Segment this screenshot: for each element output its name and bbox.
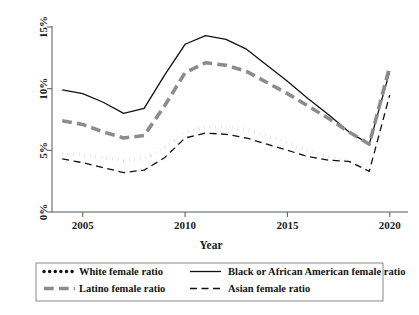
y-tick-label: 0% — [37, 204, 49, 221]
line-chart: 0%5%10%15% 2005201020152020 Year White f… — [0, 0, 419, 315]
x-axis-title: Year — [200, 239, 223, 251]
y-axis: 0%5%10%15% — [37, 16, 52, 220]
x-tick-label: 2015 — [276, 219, 299, 231]
legend-label-2: Latino female ratio — [79, 283, 165, 294]
x-axis: 2005201020152020 — [52, 212, 408, 231]
y-tick-label: 15% — [37, 16, 49, 38]
series-line-0 — [62, 112, 390, 166]
x-tick-label: 2005 — [72, 219, 95, 231]
x-tick-label: 2010 — [174, 219, 197, 231]
chart-container: 0%5%10%15% 2005201020152020 Year White f… — [0, 0, 419, 315]
chart-legend: White female ratioBlack or African Ameri… — [36, 263, 405, 301]
x-tick-label: 2020 — [379, 219, 402, 231]
legend-label-3: Asian female ratio — [228, 283, 310, 294]
legend-label-0: White female ratio — [79, 266, 163, 277]
series-line-2 — [62, 63, 390, 144]
legend-label-1: Black or African American female ratio — [228, 266, 405, 277]
series-lines — [62, 36, 390, 173]
y-tick-label: 5% — [37, 142, 49, 159]
y-tick-label: 10% — [37, 78, 49, 100]
